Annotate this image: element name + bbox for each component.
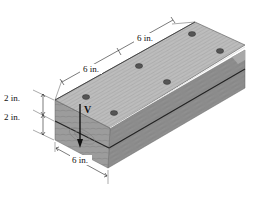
thickness-dimension: 2 in. 2 in. [4,90,54,140]
spacing-label-1: 6 in. [83,64,99,74]
thickness-label-bottom: 2 in. [4,112,20,122]
nail-head-icon [110,111,117,116]
width-label: 6 in. [72,155,88,165]
nail-head-icon [163,80,170,85]
shear-force-label: V [84,104,92,115]
beam-diagram: V 6 in. 6 in. 2 in. 2 in. 6 in. [0,0,265,198]
thickness-label-top: 2 in. [4,93,20,103]
nail-head-icon [135,64,142,69]
nail-head-icon [216,49,223,54]
nail-head-icon [188,32,195,37]
spacing-label-2: 6 in. [137,33,153,43]
nail-head-icon [82,95,89,100]
